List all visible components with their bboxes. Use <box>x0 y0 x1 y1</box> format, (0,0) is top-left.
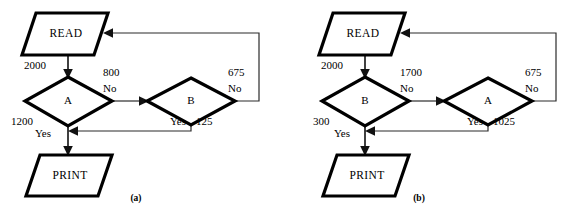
node-decision-second-a-label: B <box>187 94 194 106</box>
node-read-b-label: READ <box>347 27 380 39</box>
flowchart-panel-a: READ A B PRINT 2000 800 No 1200 Yes 675 … <box>0 0 570 222</box>
label-first-yes-count-a: 1200 <box>11 115 34 127</box>
label-second-no-word-b: No <box>525 82 539 94</box>
label-first-yes-word-b: Yes <box>334 127 350 139</box>
arrowhead-second-yes-a <box>68 126 78 136</box>
arrowhead-second-no-a <box>103 28 113 38</box>
node-print-b-label: PRINT <box>349 169 384 181</box>
label-first-no-word-a: No <box>103 82 117 94</box>
label-second-no-count-a: 675 <box>228 66 245 78</box>
node-decision-first-a-label: A <box>64 94 72 106</box>
label-second-no-word-a: No <box>228 82 242 94</box>
node-decision-first-b-label: B <box>361 94 368 106</box>
arrowhead-second-yes-b <box>365 126 375 136</box>
label-second-yes-count-b: 1025 <box>493 115 516 127</box>
label-input-count-b: 2000 <box>321 59 344 71</box>
label-first-no-count-b: 1700 <box>400 66 423 78</box>
node-read-a-label: READ <box>50 27 83 39</box>
label-second-no-count-b: 675 <box>525 66 542 78</box>
flowchart-panel-b: READ B A PRINT 2000 1700 No 300 Yes 675 … <box>313 13 556 204</box>
edge-second-yes-b <box>372 126 488 131</box>
edge-second-yes-a <box>75 126 191 131</box>
caption-panel-b: (b) <box>413 193 425 204</box>
label-second-yes-word-b: Yes <box>467 115 483 127</box>
label-second-yes-word-a: Yes <box>170 115 186 127</box>
label-first-no-count-a: 800 <box>103 66 120 78</box>
caption-panel-a: (a) <box>130 193 141 204</box>
label-input-count-a: 2000 <box>24 59 47 71</box>
label-first-yes-word-a: Yes <box>35 127 51 139</box>
node-print-a-label: PRINT <box>52 169 87 181</box>
label-first-no-word-b: No <box>400 82 414 94</box>
arrowhead-second-no-b <box>400 28 410 38</box>
node-decision-second-b-label: A <box>484 94 492 106</box>
flowchart-figure: READ A B PRINT 2000 800 No 1200 Yes 675 … <box>0 0 570 222</box>
label-first-yes-count-b: 300 <box>313 115 330 127</box>
label-second-yes-count-a: 125 <box>196 115 213 127</box>
